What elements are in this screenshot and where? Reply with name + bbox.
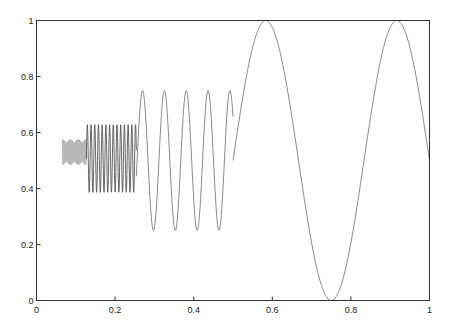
x-tick-label: 0.6 <box>266 305 279 315</box>
x-tick-label: 1 <box>427 305 432 315</box>
y-axis: 00.20.40.60.81 <box>21 16 41 306</box>
segment-2-dense-line <box>86 125 136 193</box>
x-tick-label: 0 <box>34 305 39 315</box>
x-tick-label: 0.8 <box>345 305 358 315</box>
segment-3-medium-line <box>136 91 233 231</box>
plot-lines <box>62 21 429 301</box>
x-axis: 00.20.40.60.81 <box>34 297 432 315</box>
y-tick-label: 1 <box>28 16 33 26</box>
x-tick-label: 0.2 <box>109 305 122 315</box>
x-tick-label: 0.4 <box>187 305 200 315</box>
y-tick-label: 0.8 <box>21 72 34 82</box>
y-tick-label: 0.6 <box>21 128 34 138</box>
y-tick-label: 0.4 <box>21 184 34 194</box>
y-tick-label: 0.2 <box>21 240 34 250</box>
segment-4-low-line <box>233 21 430 301</box>
y-tick-label: 0 <box>28 296 33 306</box>
segment-1-high-freq-light-line <box>62 140 86 165</box>
chart: 00.20.40.60.81 00.20.40.60.81 <box>0 0 450 331</box>
